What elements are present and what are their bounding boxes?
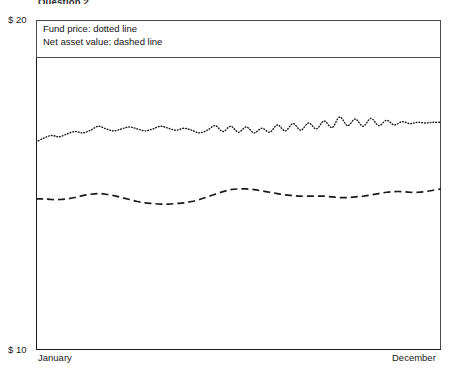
- legend: Fund price: dotted line Net asset value:…: [43, 23, 162, 48]
- page-title: Question 2: [38, 0, 89, 4]
- x-axis-start-tick-label: January: [38, 352, 72, 363]
- y-axis-top-tick-label: $ 20: [8, 14, 27, 25]
- plot-area: [36, 20, 441, 350]
- plot-frame: [36, 20, 441, 350]
- legend-item-net-asset-value: Net asset value: dashed line: [43, 36, 162, 49]
- chart-figure: Question 2 $ 20 $ 10 January December Fu…: [0, 0, 452, 375]
- series-line-net-asset-value: [36, 189, 441, 204]
- x-axis-end-tick-label: December: [392, 352, 436, 363]
- y-axis-bottom-tick-label: $ 10: [8, 344, 27, 355]
- series-line-fund-price: [36, 117, 441, 142]
- legend-item-fund-price: Fund price: dotted line: [43, 23, 162, 36]
- chart-plot-svg: [36, 20, 441, 350]
